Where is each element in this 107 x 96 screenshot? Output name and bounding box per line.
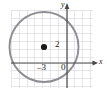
circle-graph-figure: y x 2 –3 0 [0, 0, 107, 96]
origin-label: 0 [61, 63, 66, 72]
y-coordinate-label: 2 [55, 40, 60, 49]
center-point-marker [41, 44, 47, 50]
y-axis-arrow [65, 3, 70, 9]
x-axis [11, 61, 98, 66]
x-axis-label: x [99, 58, 103, 66]
y-axis-label: y [61, 1, 65, 9]
plot-canvas [0, 0, 107, 96]
x-coordinate-label: –3 [37, 63, 46, 72]
grid-lines [11, 10, 93, 88]
